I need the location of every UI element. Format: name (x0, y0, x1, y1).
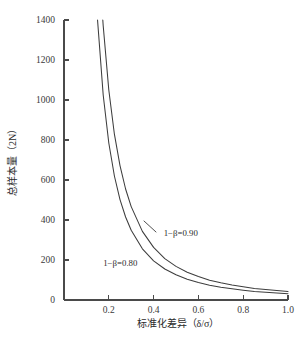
y-tick-label: 1200 (36, 55, 55, 65)
y-tick-label: 600 (41, 175, 56, 185)
curve-power-090 (103, 20, 288, 292)
y-tick-label: 1000 (36, 95, 55, 105)
y-tick-label: 200 (41, 255, 56, 265)
curve-power-080 (98, 20, 288, 294)
curve-group (98, 20, 288, 294)
y-tick-label: 0 (50, 295, 55, 305)
x-axis-title: 标准化差异（δ/σ） (137, 317, 220, 329)
x-tick-label: 0.2 (103, 305, 115, 315)
x-tick-label: 0.4 (148, 305, 160, 315)
y-tick-label: 1400 (36, 15, 55, 25)
curve-label: 1−β=0.80 (103, 258, 138, 268)
x-axis-ticks: 0.20.40.60.81.0 (103, 295, 294, 315)
curve-annotations: 1−β=0.901−β=0.80 (103, 228, 198, 268)
y-tick-label: 800 (41, 135, 56, 145)
curve-label: 1−β=0.90 (164, 228, 199, 238)
chart-canvas: 0200400600800100012001400 0.20.40.60.81.… (0, 0, 300, 345)
x-tick-label: 1.0 (282, 305, 294, 315)
y-axis-title: 总样本量（2N） (6, 124, 18, 196)
sample-size-power-chart: 0200400600800100012001400 0.20.40.60.81.… (0, 0, 300, 345)
annotation-leader-line (144, 221, 156, 232)
x-tick-label: 0.6 (192, 305, 204, 315)
x-tick-label: 0.8 (237, 305, 249, 315)
y-tick-label: 400 (41, 215, 56, 225)
